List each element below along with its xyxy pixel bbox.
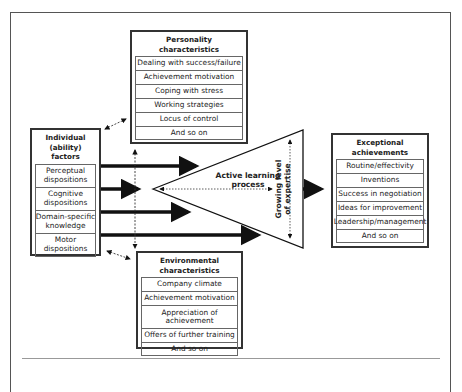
individual-personality-dotted-arrow	[105, 119, 126, 129]
individual-environment-dotted-arrow	[107, 251, 130, 259]
label-line: Growing level	[274, 149, 283, 229]
label-line: of expertise	[283, 149, 292, 229]
label-line: Active learning	[213, 171, 283, 180]
growing-expertise-label: Growing level of expertise	[274, 149, 292, 229]
active-learning-label: Active learning process	[213, 171, 283, 189]
label-line: process	[213, 180, 283, 189]
